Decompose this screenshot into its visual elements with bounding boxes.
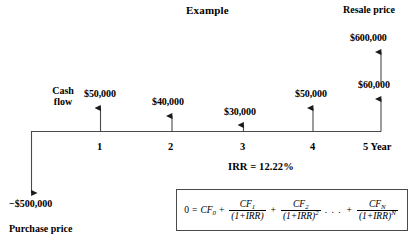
formula-term2-den-sup: 2 xyxy=(315,209,318,216)
formula-term1-num-sub: 1 xyxy=(252,203,255,210)
year-tick-1: 1 xyxy=(97,141,102,152)
amount-label-purchase: −$500,000 xyxy=(9,199,52,210)
formula-term2-num-base: CF xyxy=(293,199,305,209)
formula-cf0-base: CF xyxy=(200,205,212,215)
irr-formula-box: 0 = CF0 + CF1 (1+IRR) + CF2 (1+IRR)2 . .… xyxy=(176,189,408,231)
formula-term1-num-base: CF xyxy=(240,199,252,209)
formula-term1-numerator: CF1 xyxy=(237,199,259,210)
purchase-price-label: Purchase price xyxy=(9,224,72,235)
irr-formula: 0 = CF0 + CF1 (1+IRR) + CF2 (1+IRR)2 . .… xyxy=(177,190,407,230)
formula-plus-1: + xyxy=(216,205,227,215)
year-tick-2: 2 xyxy=(168,141,173,152)
formula-termn-num-base: CF xyxy=(369,199,381,209)
formula-term2-denominator: (1+IRR)2 xyxy=(281,211,321,222)
year-tick-4: 4 xyxy=(310,141,315,152)
formula-term2-den-base: (1+IRR) xyxy=(283,211,315,221)
formula-plus-3: + xyxy=(344,205,355,215)
year-tick-5: 5 Year xyxy=(363,141,391,152)
formula-term-1: CF1 (1+IRR) xyxy=(229,199,265,222)
formula-termn-num-sub: N xyxy=(381,203,386,210)
irr-annotation: IRR = 12.22% xyxy=(228,161,294,172)
formula-termn-denominator: (1+IRR)N xyxy=(357,211,398,222)
formula-term2-num-sub: 2 xyxy=(305,203,308,210)
formula-equals: = xyxy=(189,205,200,215)
figure-canvas: Example Resale price $600,000 Cash flow … xyxy=(0,0,418,246)
formula-termn-numerator: CFN xyxy=(366,199,389,210)
formula-ellipsis: . . . xyxy=(323,205,344,215)
formula-termn-den-base: (1+IRR) xyxy=(359,211,391,221)
formula-term1-denominator: (1+IRR) xyxy=(229,211,265,222)
formula-cf0: CF0 xyxy=(200,205,216,215)
formula-plus-2: + xyxy=(268,205,279,215)
year-tick-3: 3 xyxy=(240,141,245,152)
formula-term-n: CFN (1+IRR)N xyxy=(357,199,398,222)
formula-cf0-sub: 0 xyxy=(213,209,216,216)
formula-term2-numerator: CF2 xyxy=(290,199,312,210)
formula-termn-den-sup: N xyxy=(391,209,396,216)
formula-term-2: CF2 (1+IRR)2 xyxy=(281,199,321,222)
